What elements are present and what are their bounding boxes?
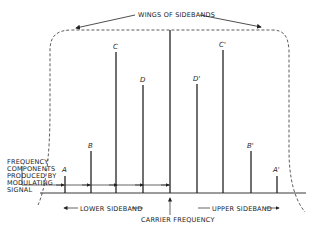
label-c: C bbox=[113, 43, 118, 51]
label-a-prime: A' bbox=[272, 166, 280, 174]
wing-arrow-left bbox=[76, 15, 135, 28]
upper-sideband-label: UPPER SIDEBAND bbox=[212, 205, 272, 213]
left-note: FREQUENCY COMPONENTS PRODUCED BY MODULAT… bbox=[7, 158, 56, 194]
title-label: WINGS OF SIDEBANDS bbox=[138, 11, 215, 19]
label-b: B bbox=[88, 142, 93, 150]
lower-sideband-label: LOWER SIDEBAND bbox=[80, 205, 142, 213]
label-c-prime: C' bbox=[219, 41, 226, 49]
carrier-frequency-label: CARRIER FREQUENCY bbox=[141, 216, 215, 224]
label-d-prime: D' bbox=[193, 75, 200, 83]
label-b-prime: B' bbox=[247, 142, 254, 150]
sideband-diagram: WINGS OF SIDEBANDS FREQUENCY COMPONENTS … bbox=[0, 0, 311, 227]
wing-arrow-right bbox=[200, 15, 261, 27]
svg-text:SIGNAL: SIGNAL bbox=[7, 186, 32, 194]
label-a: A bbox=[61, 166, 67, 174]
label-d: D bbox=[140, 76, 146, 84]
